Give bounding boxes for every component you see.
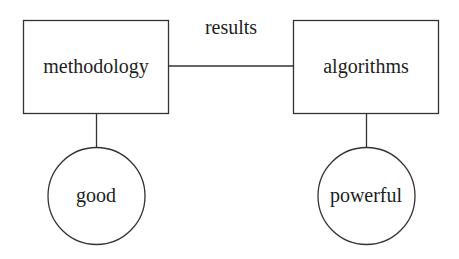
- diagram-canvas: results methodology algorithms good powe…: [0, 0, 459, 259]
- node-powerful: powerful: [318, 148, 415, 245]
- node-label-powerful: powerful: [330, 184, 403, 207]
- node-methodology: methodology: [24, 21, 169, 114]
- node-algorithms: algorithms: [294, 21, 439, 114]
- node-label-algorithms: algorithms: [323, 55, 409, 78]
- node-label-methodology: methodology: [43, 55, 149, 78]
- node-label-good: good: [76, 184, 116, 207]
- node-good: good: [48, 148, 145, 245]
- edge-label-results: results: [205, 16, 257, 38]
